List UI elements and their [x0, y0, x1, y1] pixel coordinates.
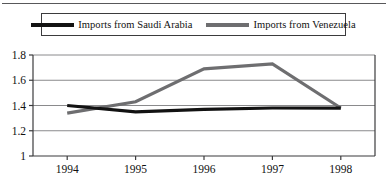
- venezuela-line-swatch-icon: [206, 23, 249, 27]
- x-tick-label: 1995: [124, 163, 147, 175]
- x-tick-label: 1994: [56, 163, 79, 175]
- x-axis-tick-labels: 19941995199619971998: [56, 163, 353, 175]
- imports-line-chart-figure: Imports from Saudi Arabia Imports from V…: [0, 0, 388, 190]
- legend-item-venezuela: Imports from Venezuela: [206, 19, 355, 30]
- y-tick-label: 1.4: [12, 100, 27, 112]
- y-gridlines: [33, 55, 375, 131]
- legend-label-saudi-arabia: Imports from Saudi Arabia: [78, 19, 192, 30]
- y-tick-label: 1.6: [12, 74, 27, 86]
- legend-entries: Imports from Saudi Arabia Imports from V…: [42, 14, 345, 35]
- y-tick-label: 1: [20, 150, 26, 162]
- y-axis-tick-labels: 11.21.41.61.8: [12, 49, 27, 162]
- legend-item-saudi-arabia: Imports from Saudi Arabia: [31, 19, 192, 30]
- x-tick-marks: [67, 156, 341, 160]
- y-tick-label: 1.8: [12, 49, 27, 61]
- x-tick-label: 1998: [329, 163, 352, 175]
- chart-svg: 11.21.41.61.8 19941995199619971998: [0, 38, 388, 190]
- header-rule: [2, 3, 386, 4]
- x-tick-label: 1997: [261, 163, 284, 175]
- saudi-line-swatch-icon: [31, 23, 74, 27]
- legend-label-venezuela: Imports from Venezuela: [253, 19, 355, 30]
- plot-area: 11.21.41.61.8 19941995199619971998: [0, 38, 388, 190]
- x-tick-label: 1996: [193, 163, 216, 175]
- y-tick-label: 1.2: [12, 125, 27, 137]
- chart-legend: Imports from Saudi Arabia Imports from V…: [41, 13, 346, 36]
